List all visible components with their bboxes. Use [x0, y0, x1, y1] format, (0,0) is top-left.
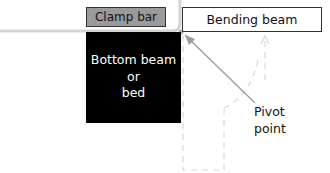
clamp-bar-box: Clamp bar: [86, 7, 166, 27]
clamp-bar-label: Clamp bar: [95, 10, 157, 24]
bottom-beam-box: Bottom beam or bed: [86, 32, 181, 123]
bending-beam-box: Bending beam: [182, 7, 322, 32]
dashed-swing-path-lower: [183, 35, 224, 170]
bottom-beam-label-line3: bed: [86, 85, 181, 102]
pivot-leader-line: [185, 35, 255, 103]
pivot-label-line1: Pivot: [254, 103, 286, 120]
bending-beam-label: Bending beam: [207, 12, 298, 27]
folding-machine-diagram: Clamp bar Bending beam Bottom beam or be…: [0, 0, 330, 173]
bottom-beam-label-line1: Bottom beam: [86, 52, 181, 69]
pivot-point-label: Pivot point: [254, 103, 286, 137]
bottom-beam-label-line2: or: [86, 69, 181, 86]
pivot-label-line2: point: [254, 120, 286, 137]
